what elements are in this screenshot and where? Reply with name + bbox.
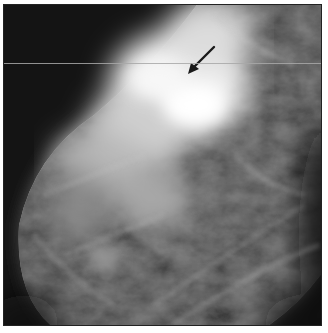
mammogram-image [3, 4, 322, 326]
tissue-rendering [4, 5, 322, 326]
scan-line-artifact [4, 63, 321, 64]
